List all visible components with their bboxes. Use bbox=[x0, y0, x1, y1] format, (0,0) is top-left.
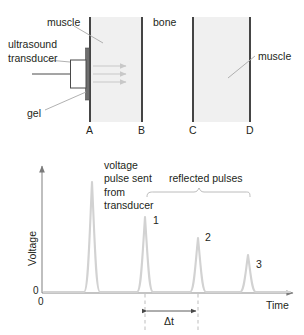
peak-label-1: 1 bbox=[153, 214, 159, 226]
chart-axes bbox=[42, 166, 293, 293]
muscle-region-AB bbox=[90, 17, 142, 122]
boundary-label-C: C bbox=[189, 124, 197, 136]
label-muscle-top: muscle bbox=[47, 16, 80, 28]
tissue-regions bbox=[90, 17, 250, 122]
sent-pulse-line-4: transducer bbox=[104, 199, 154, 211]
label-transducer: transducer bbox=[8, 52, 58, 64]
muscle-region-CD bbox=[193, 17, 250, 122]
transducer-body bbox=[32, 60, 86, 88]
y-axis-title: Voltage bbox=[26, 231, 38, 266]
reflected-pulses-bracket bbox=[147, 188, 250, 197]
label-muscle-right: muscle bbox=[258, 50, 291, 62]
sent-pulse-line-1: voltage bbox=[104, 159, 138, 171]
boundary-label-D: D bbox=[246, 124, 254, 136]
boundary-label-B: B bbox=[138, 124, 145, 136]
sent-pulse-line-2: pulse sent bbox=[104, 172, 152, 184]
peak-label-2: 2 bbox=[205, 231, 211, 243]
voltage-trace bbox=[44, 182, 290, 292]
delta-t-label: Δt bbox=[164, 315, 174, 327]
label-reflected-pulses: reflected pulses bbox=[169, 172, 243, 184]
peak-label-3: 3 bbox=[256, 258, 262, 270]
label-bone: bone bbox=[153, 16, 176, 28]
boundary-label-A: A bbox=[86, 124, 93, 136]
leader-gel bbox=[45, 92, 86, 110]
x-axis-title: Time bbox=[266, 299, 289, 311]
sent-pulse-line-3: from bbox=[104, 186, 125, 198]
label-ultrasound: ultrasound bbox=[8, 38, 57, 50]
x-axis-zero: 0 bbox=[38, 296, 44, 308]
figure-canvas: muscle ultrasound transducer gel bone mu… bbox=[0, 0, 304, 335]
label-gel: gel bbox=[27, 107, 41, 119]
